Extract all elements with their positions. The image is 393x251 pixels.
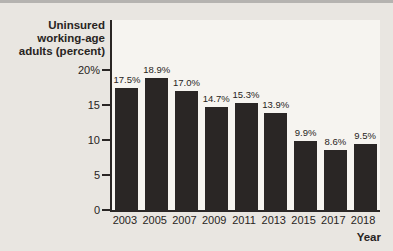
bar-2007 [175, 91, 198, 210]
bar-2015 [294, 141, 317, 210]
figure: Uninsured working-age adults (percent) 1… [0, 0, 393, 251]
bar-2017 [324, 150, 347, 210]
y-tick-mark [102, 209, 110, 211]
bar-2011 [235, 103, 258, 210]
bar-2003 [115, 88, 138, 211]
y-tick-label: 10 [55, 134, 100, 146]
top-band [0, 0, 393, 3]
bar-value-label: 18.9% [132, 65, 182, 75]
y-tick-mark [102, 139, 110, 141]
plot-area: 17.5%18.9%17.0%14.7%15.3%13.9%9.9%8.6%9.… [110, 20, 380, 212]
y-tick-mark [102, 174, 110, 176]
bar-2009 [205, 107, 228, 210]
x-tick-label: 2018 [341, 214, 385, 226]
y-axis-title-line: Uninsured [19, 19, 105, 32]
x-axis-title: Year [357, 231, 381, 243]
y-tick-label: 0 [55, 204, 100, 216]
y-tick-label: 15 [55, 99, 100, 111]
bar-value-label: 17.0% [161, 78, 211, 88]
y-tick-mark [102, 69, 110, 71]
bar-value-label: 9.5% [340, 131, 390, 141]
y-axis-title-line: adults (percent) [19, 45, 105, 58]
y-axis-title: Uninsured working-age adults (percent) [19, 19, 105, 58]
y-tick-label: 5 [55, 169, 100, 181]
bar-2005 [145, 78, 168, 210]
y-axis-title-line: working-age [19, 32, 105, 45]
y-tick-mark [102, 104, 110, 106]
y-tick-label: 20% [55, 64, 100, 76]
bar-2018 [354, 144, 377, 211]
bar-value-label: 13.9% [251, 100, 301, 110]
